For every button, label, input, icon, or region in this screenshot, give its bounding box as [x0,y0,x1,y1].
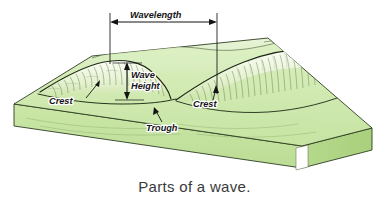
crest-right-label: Crest [193,99,217,109]
wave-height-label-line1: Wave [131,70,155,80]
slab-corner-notch [296,145,308,170]
figure-caption: Parts of a wave. [0,178,389,195]
wavelength-arrowhead-right [209,19,217,25]
wave-block-diagram: Wavelength Wavelength Wave Wave Height H… [0,0,389,206]
wave-height-label-line2: Height [131,81,161,91]
figure-container: Wavelength Wavelength Wave Wave Height H… [0,0,389,206]
wavelength-arrowhead-left [110,19,118,25]
trough-label: Trough [146,123,178,133]
wavelength-label: Wavelength [130,10,182,20]
crest-left-label: Crest [49,96,73,106]
